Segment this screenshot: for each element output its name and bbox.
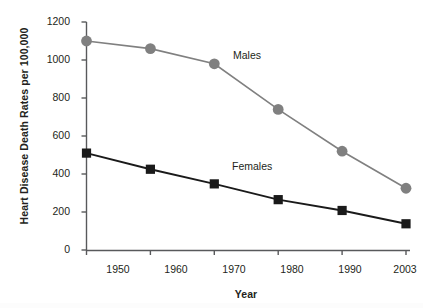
x-tick-label-1960: 1960 [152, 264, 200, 275]
series-annotation-females: Females [232, 160, 272, 172]
data-point-males-2003 [401, 183, 412, 194]
series-annotation-males: Males [233, 49, 261, 61]
y-tick-label-0: 0 [24, 244, 70, 255]
chart-figure: Heart Disease Death Rates per 100,000 Ye… [0, 0, 423, 308]
data-point-females-1980 [274, 195, 283, 204]
x-axis-title: Year [86, 288, 406, 300]
data-point-males-1960 [145, 43, 156, 54]
plot-area [0, 0, 423, 308]
x-tick-label-2003: 2003 [381, 264, 423, 275]
y-axis-ticks [82, 22, 87, 250]
y-tick-label-400: 400 [24, 168, 70, 179]
data-point-females-1960 [146, 165, 155, 174]
x-tick-label-1950: 1950 [94, 264, 142, 275]
y-tick-label-800: 800 [24, 92, 70, 103]
y-tick-label-1200: 1200 [24, 16, 70, 27]
x-tick-label-1980: 1980 [268, 264, 316, 275]
data-point-males-1950 [81, 36, 92, 47]
x-tick-label-1990: 1990 [326, 264, 374, 275]
y-tick-label-200: 200 [24, 206, 70, 217]
data-point-females-1970 [210, 179, 219, 188]
data-point-males-1980 [273, 104, 284, 115]
x-tick-label-1970: 1970 [210, 264, 258, 275]
data-point-females-1990 [338, 206, 347, 215]
scan-edge-artifact [0, 303, 423, 308]
data-point-males-1990 [337, 146, 348, 157]
y-tick-label-600: 600 [24, 130, 70, 141]
y-tick-label-1000: 1000 [24, 54, 70, 65]
data-point-females-1950 [82, 149, 91, 158]
data-point-males-1970 [209, 58, 220, 69]
data-point-females-2003 [401, 219, 410, 228]
